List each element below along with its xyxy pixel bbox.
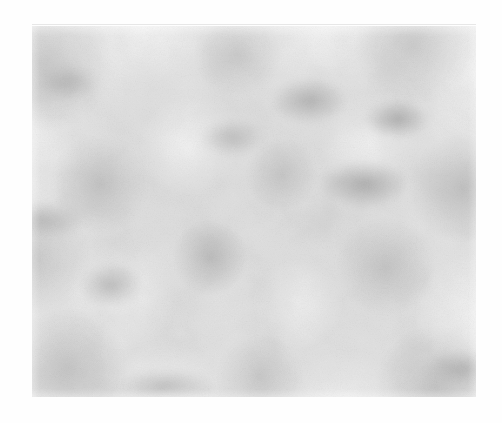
micrograph-plate — [32, 26, 476, 397]
plate-grain-texture — [32, 26, 476, 397]
scan-line-artifact — [32, 24, 476, 25]
page-canvas — [0, 0, 502, 423]
